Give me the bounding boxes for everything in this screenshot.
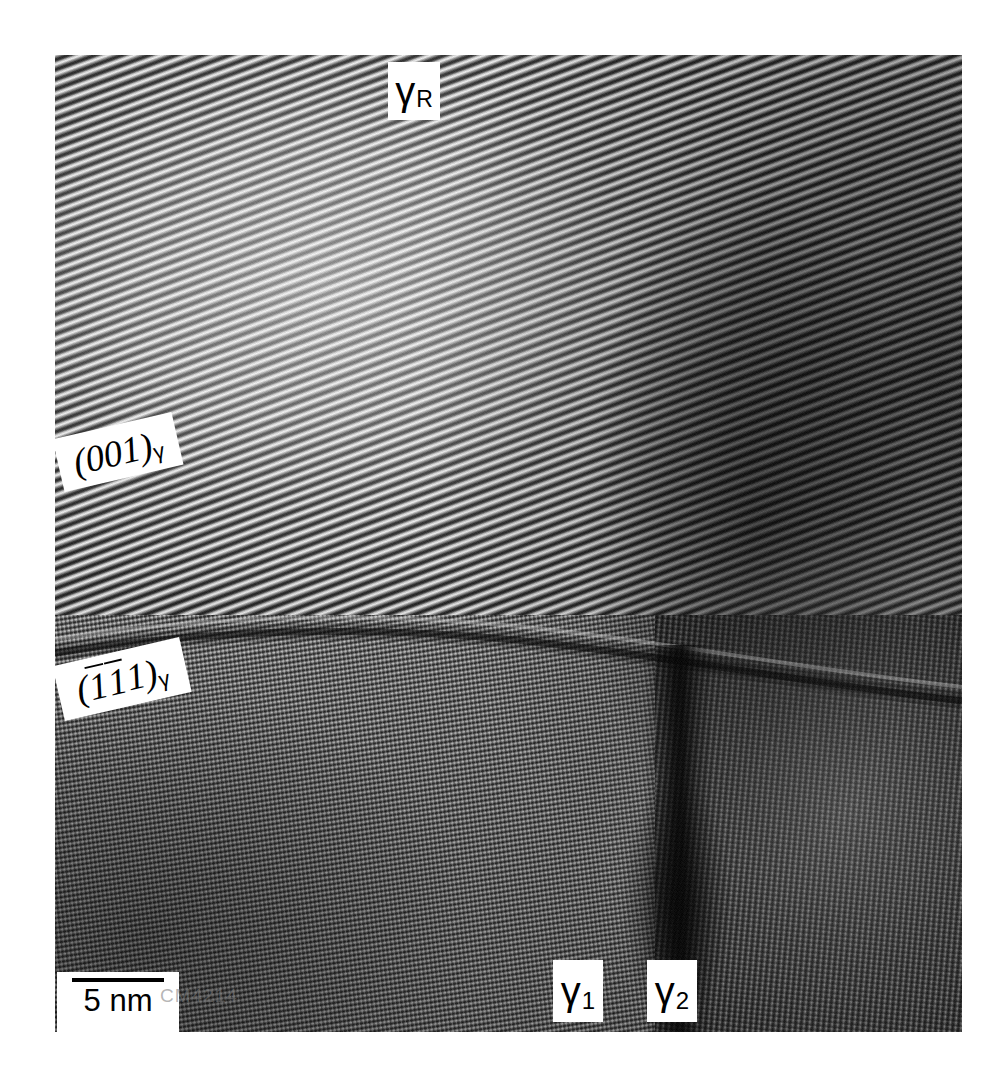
label-gamma-1-subscript: 1 xyxy=(582,989,595,1022)
label-gamma-1-symbol: γ xyxy=(561,971,581,1011)
label-plane-111-subscript: γ xyxy=(156,668,173,699)
label-gamma-r-subscript: R xyxy=(416,88,433,120)
micrograph-image: γR (001)γ (111)γ γ1 γ2 5 nm CM4214 xyxy=(55,55,962,1032)
label-gamma-1: γ1 xyxy=(553,960,603,1022)
figure-root: γR (001)γ (111)γ γ1 γ2 5 nm CM4214 xyxy=(0,0,1007,1087)
scale-bar: 5 nm xyxy=(57,972,179,1032)
label-plane-001-subscript: γ xyxy=(151,440,168,471)
lattice-fringes-gamma-r xyxy=(55,55,962,655)
lattice-fringes-gamma-2 xyxy=(655,615,962,1032)
label-plane-001-indices: 001 xyxy=(81,429,143,478)
label-gamma-r-symbol: γ xyxy=(395,71,415,111)
label-gamma-2: γ2 xyxy=(647,960,697,1022)
grain-gamma-2 xyxy=(655,615,962,1032)
grain-gamma-r xyxy=(55,55,962,655)
label-gamma-r: γR xyxy=(388,62,440,120)
scale-bar-line xyxy=(72,978,164,982)
label-gamma-2-symbol: γ xyxy=(655,971,675,1011)
label-gamma-2-subscript: 2 xyxy=(676,989,689,1022)
scale-bar-label: 5 nm xyxy=(84,985,153,1016)
